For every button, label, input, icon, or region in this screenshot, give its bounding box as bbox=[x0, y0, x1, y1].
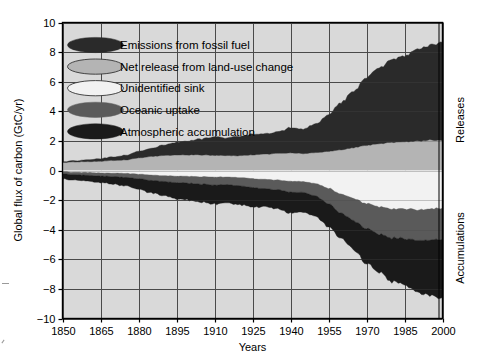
y-tick-label: −8 bbox=[43, 283, 56, 295]
chart-figure: 1086420−2−4−6−8−10 185018651880189519101… bbox=[0, 0, 493, 362]
y-tick-label: 0 bbox=[49, 165, 55, 177]
y-tick-label: 4 bbox=[49, 105, 55, 117]
x-tick-label: 2000 bbox=[431, 325, 455, 337]
y-tick-label: −4 bbox=[43, 224, 56, 236]
x-tick-label: 1970 bbox=[355, 325, 379, 337]
legend-label-unidentified-sink: Unidentified sink bbox=[120, 82, 205, 94]
legend-marker-atmospheric-accumulation bbox=[68, 124, 124, 139]
legend-marker-emissions-fossil-fuel bbox=[68, 37, 124, 52]
x-tick-label: 1850 bbox=[51, 325, 75, 337]
legend-marker-oceanic-uptake bbox=[68, 102, 124, 117]
y-tick-label: −2 bbox=[43, 194, 56, 206]
x-tick-label: 1955 bbox=[317, 325, 341, 337]
y-tick-label: 10 bbox=[43, 17, 55, 29]
x-tick-label: 1985 bbox=[393, 325, 417, 337]
y-tick-label: −10 bbox=[37, 313, 56, 325]
y-tick-label: 6 bbox=[49, 76, 55, 88]
y-tick-label: 8 bbox=[49, 46, 55, 58]
legend-label-net-release-land-use: Net release from land-use change bbox=[120, 61, 293, 73]
legend-label-oceanic-uptake: Oceanic uptake bbox=[120, 104, 200, 116]
x-tick-label: 1865 bbox=[89, 325, 113, 337]
y-tick-label: 2 bbox=[49, 135, 55, 147]
y-axis-label: Global flux of carbon (GtC/yr) bbox=[12, 98, 24, 241]
x-tick-label: 1910 bbox=[203, 325, 227, 337]
x-tick-label: 1925 bbox=[241, 325, 265, 337]
legend-marker-unidentified-sink bbox=[68, 81, 124, 96]
x-axis-label: Years bbox=[239, 341, 267, 353]
x-tick-label: 1940 bbox=[279, 325, 303, 337]
side-label-releases: Releases bbox=[454, 97, 466, 143]
x-tick-label: 1880 bbox=[127, 325, 151, 337]
legend-label-emissions-fossil-fuel: Emissions from fossil fuel bbox=[120, 39, 250, 51]
legend-marker-net-release-land-use bbox=[68, 59, 124, 74]
carbon-flux-area-chart: 1086420−2−4−6−8−10 185018651880189519101… bbox=[0, 0, 493, 362]
scan-artifact-left-upper bbox=[2, 283, 9, 284]
legend-label-atmospheric-accumulation: Atmospheric accumulation bbox=[120, 126, 255, 138]
side-label-accumulations: Accumulations bbox=[454, 212, 466, 284]
y-tick-label: −6 bbox=[43, 253, 56, 265]
x-tick-label: 1895 bbox=[165, 325, 189, 337]
